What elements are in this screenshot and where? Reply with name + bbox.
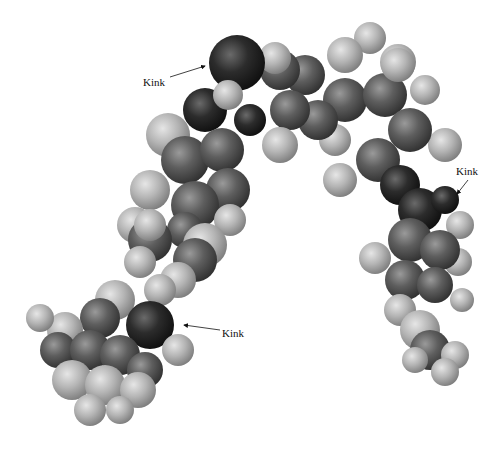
kink-label-top: Kink [143,76,166,88]
kink-bottom-arrow [184,325,220,330]
kink-right-arrow [457,180,468,194]
molecule-figure: Kink Kink Kink [0,0,486,455]
kink-top-arrow [170,66,205,77]
molecule-chain [26,22,474,426]
kink-label-bottom: Kink [222,327,245,339]
kink-label-right: Kink [456,165,479,177]
